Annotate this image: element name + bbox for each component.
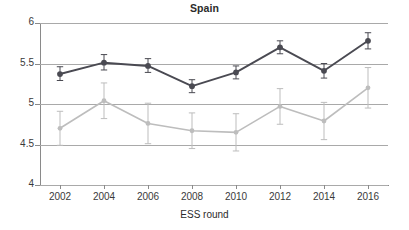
plot-series-layer — [0, 0, 409, 230]
data-point-marker — [233, 70, 239, 76]
data-point-marker — [190, 128, 195, 133]
series-line — [60, 88, 368, 133]
data-point-marker — [101, 60, 107, 66]
data-point-marker — [366, 85, 371, 90]
data-point-marker — [145, 63, 151, 69]
chart-container: Spain 65.554.54 200220042006200820102012… — [0, 0, 409, 230]
data-point-marker — [321, 68, 327, 74]
data-point-marker — [146, 121, 151, 126]
data-point-marker — [277, 44, 283, 50]
data-point-marker — [102, 98, 107, 103]
x-axis-title: ESS round — [0, 209, 409, 220]
data-point-marker — [58, 126, 63, 131]
data-point-marker — [278, 104, 283, 109]
data-point-marker — [322, 119, 327, 124]
data-point-marker — [365, 38, 371, 44]
data-point-marker — [57, 71, 63, 77]
data-point-marker — [189, 83, 195, 89]
data-point-marker — [234, 130, 239, 135]
